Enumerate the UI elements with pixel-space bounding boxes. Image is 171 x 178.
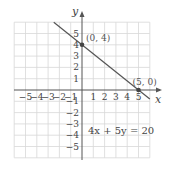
x-axis-arrow-icon <box>156 88 162 93</box>
y-tick-label: 3 <box>73 51 79 61</box>
x-axis-label: x <box>155 93 162 106</box>
point-label: (0, 4) <box>86 33 110 43</box>
intercept-points: (0, 4)(5, 0) <box>80 33 157 92</box>
x-tick-labels: −5−4−3−2−112345 <box>19 92 142 102</box>
y-tick-label: −5 <box>66 142 80 152</box>
equation-label: 4x + 5y = 20 <box>88 125 154 136</box>
coordinate-plane: x y −5−4−3−2−112345 54321−1−2−3−4−5 (0, … <box>0 0 171 178</box>
x-tick-label: 4 <box>124 92 130 102</box>
y-tick-label: −1 <box>66 96 79 106</box>
y-axis-label: y <box>71 5 79 18</box>
y-axis-arrow-icon <box>80 11 85 17</box>
y-tick-label: −4 <box>66 130 80 140</box>
x-tick-label: 3 <box>113 92 119 102</box>
y-tick-label: 5 <box>73 29 79 39</box>
point-marker <box>136 88 141 93</box>
point-label: (5, 0) <box>133 77 157 87</box>
point-marker <box>80 43 85 48</box>
y-tick-label: −2 <box>66 108 79 118</box>
y-tick-label: 2 <box>73 62 79 72</box>
y-tick-label: 1 <box>73 74 79 84</box>
x-tick-label: 2 <box>102 92 108 102</box>
x-tick-label: 1 <box>90 92 96 102</box>
x-tick-label: 5 <box>136 92 142 102</box>
y-tick-label: −3 <box>66 119 80 129</box>
